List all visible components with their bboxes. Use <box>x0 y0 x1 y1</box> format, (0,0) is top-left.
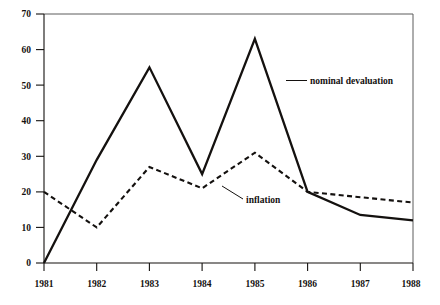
x-tick-label-1984: 1984 <box>193 279 212 289</box>
y-tick-label-30: 30 <box>22 152 32 162</box>
plot-frame <box>44 14 413 263</box>
x-tick-label-1986: 1986 <box>298 279 317 289</box>
y-tick-label-70: 70 <box>22 9 32 19</box>
x-tick-label-1983: 1983 <box>140 279 159 289</box>
line-chart: 0 10 20 30 40 50 60 70 1981 1982 1983 19… <box>0 0 440 305</box>
x-tick-label-1988: 1988 <box>402 279 421 289</box>
y-tick-label-50: 50 <box>22 81 32 91</box>
y-tick-label-0: 0 <box>26 258 31 268</box>
y-tick-label-10: 10 <box>22 223 32 233</box>
chart-canvas: 0 10 20 30 40 50 60 70 1981 1982 1983 19… <box>0 0 440 305</box>
y-tick-label-40: 40 <box>22 116 32 126</box>
series-line-nominal-devaluation <box>44 39 413 263</box>
x-tick-label-1981: 1981 <box>35 279 54 289</box>
series-annotation-inflation: inflation <box>246 195 281 205</box>
leader-line-inflation <box>222 186 243 199</box>
y-tick-label-20: 20 <box>22 187 32 197</box>
x-tick-label-1982: 1982 <box>87 279 106 289</box>
x-tick-label-1987: 1987 <box>351 279 370 289</box>
series-annotation-nominal-devaluation: nominal devaluation <box>310 76 394 86</box>
y-tick-label-60: 60 <box>22 45 32 55</box>
x-tick-label-1985: 1985 <box>245 279 264 289</box>
